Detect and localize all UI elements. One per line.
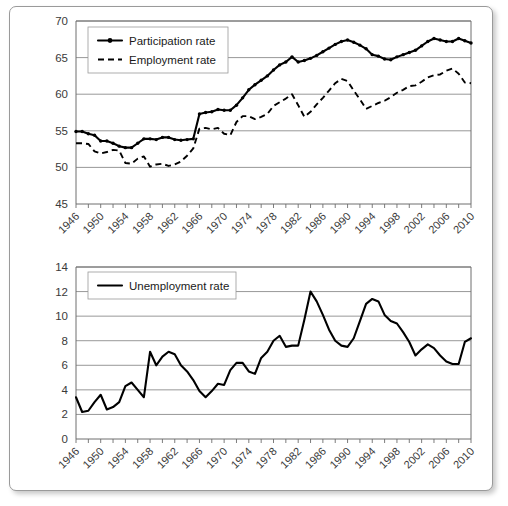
series-marker (210, 110, 213, 113)
x-tick-label: 2010 (451, 445, 477, 471)
x-tick-label: 2002 (401, 210, 427, 236)
series-marker (142, 137, 145, 140)
series-marker (315, 54, 318, 57)
x-tick-label: 1970 (204, 445, 230, 471)
series-marker (74, 130, 77, 133)
series-marker (408, 51, 411, 54)
series-marker (247, 88, 250, 91)
x-tick-label: 1978 (253, 210, 279, 236)
series-marker (179, 139, 182, 142)
x-tick-label: 1994 (352, 445, 378, 471)
participation-employment-plot: 4550556065701946195019541958196219661970… (10, 7, 494, 255)
x-tick-label: 2010 (451, 210, 477, 236)
series-marker (303, 59, 306, 62)
series-marker (290, 55, 293, 58)
series-marker (377, 54, 380, 57)
series-marker (235, 103, 238, 106)
series-marker (222, 109, 225, 112)
series-marker (334, 43, 337, 46)
x-tick-label: 1954 (105, 445, 131, 471)
unemployment-chart: 0246810121419461950195419581962196619701… (10, 255, 494, 492)
series-marker (80, 130, 83, 133)
x-tick-label: 1990 (327, 445, 353, 471)
y-tick-label: 50 (55, 161, 68, 173)
legend: Unemployment rate (88, 272, 236, 299)
series-marker (99, 139, 102, 142)
series-marker (229, 109, 232, 112)
x-tick-label: 1958 (130, 445, 156, 471)
series-marker (426, 40, 429, 43)
y-tick-label: 14 (55, 261, 68, 273)
y-tick-label: 12 (55, 286, 68, 298)
series-marker (148, 137, 151, 140)
y-tick-label: 4 (62, 384, 69, 396)
x-tick-label: 1986 (302, 210, 328, 236)
series-marker (321, 50, 324, 53)
series-marker (346, 38, 349, 41)
series-marker (383, 57, 386, 60)
series-marker (358, 43, 361, 46)
series-marker (463, 39, 466, 42)
legend-item-label: Employment rate (129, 54, 216, 66)
series-marker (352, 41, 355, 44)
x-tick-label: 1950 (80, 445, 106, 471)
x-tick-label: 1954 (105, 210, 131, 236)
series-marker (87, 132, 90, 135)
series-marker (130, 146, 133, 149)
series-marker (395, 55, 398, 58)
series-marker (371, 53, 374, 56)
series-marker (389, 58, 392, 61)
series-marker (327, 46, 330, 49)
series-marker (296, 60, 299, 63)
y-tick-label: 55 (55, 125, 68, 137)
x-tick-label: 1974 (228, 445, 254, 471)
series-marker (241, 96, 244, 99)
series-marker (204, 111, 207, 114)
legend-item-label: Participation rate (129, 35, 215, 47)
series-marker (278, 63, 281, 66)
series-marker (105, 139, 108, 142)
series-marker (451, 40, 454, 43)
legend-item-label: Unemployment rate (129, 280, 229, 292)
y-tick-label: 2 (62, 408, 68, 420)
x-tick-label: 1958 (130, 210, 156, 236)
x-tick-label: 2006 (426, 445, 452, 471)
series-marker (185, 138, 188, 141)
x-tick-label: 1946 (56, 210, 82, 236)
series-marker (266, 74, 269, 77)
y-tick-label: 60 (55, 88, 68, 100)
series-marker (309, 57, 312, 60)
participation-employment-chart: 4550556065701946195019541958196219661970… (10, 7, 494, 255)
series-marker (438, 38, 441, 41)
series-marker (401, 53, 404, 56)
x-tick-label: 1974 (228, 210, 254, 236)
y-tick-label: 0 (62, 433, 68, 445)
y-tick-label: 45 (55, 198, 68, 210)
x-tick-label: 2002 (401, 445, 427, 471)
series-line (76, 292, 471, 412)
series-marker (259, 79, 262, 82)
series-marker (167, 136, 170, 139)
series-marker (469, 41, 472, 44)
x-tick-label: 1962 (154, 445, 180, 471)
x-tick-label: 1962 (154, 210, 180, 236)
legend-swatch-marker (108, 38, 113, 43)
x-tick-label: 1990 (327, 210, 353, 236)
series-marker (216, 108, 219, 111)
y-tick-label: 70 (55, 15, 68, 27)
legend: Participation rateEmployment rate (88, 27, 228, 73)
series-marker (340, 40, 343, 43)
series-marker (253, 83, 256, 86)
y-tick-label: 65 (55, 52, 68, 64)
series-marker (155, 138, 158, 141)
x-tick-label: 1982 (278, 445, 304, 471)
series-marker (364, 47, 367, 50)
series-line (76, 69, 471, 167)
series-marker (173, 138, 176, 141)
x-tick-label: 1986 (302, 445, 328, 471)
x-tick-label: 1998 (377, 210, 403, 236)
series-marker (445, 40, 448, 43)
series-marker (457, 37, 460, 40)
series-marker (414, 49, 417, 52)
x-tick-label: 1950 (80, 210, 106, 236)
